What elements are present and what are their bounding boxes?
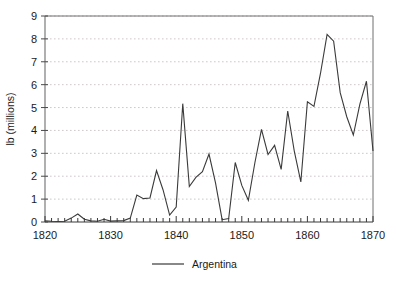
legend-label-argentina: Argentina xyxy=(192,258,237,270)
chart-legend: Argentina xyxy=(152,258,237,270)
y-tick-label-8: 8 xyxy=(31,33,37,45)
x-tick-label-1830: 1830 xyxy=(98,229,122,241)
y-axis-title: lb (millions) xyxy=(4,92,16,145)
y-tick-label-1: 1 xyxy=(31,193,37,205)
y-tick-label-9: 9 xyxy=(31,10,37,22)
y-tick-label-6: 6 xyxy=(31,79,37,91)
y-tick-label-2: 2 xyxy=(31,170,37,182)
y-tick-label-4: 4 xyxy=(31,124,37,136)
y-tick-label-0: 0 xyxy=(31,216,37,228)
x-axis-tick-labels: 182018301840185018601870 xyxy=(33,229,385,241)
x-tick-label-1860: 1860 xyxy=(295,229,319,241)
y-axis-tick-labels: 0123456789 xyxy=(31,10,37,228)
x-tick-label-1870: 1870 xyxy=(361,229,385,241)
x-tick-label-1840: 1840 xyxy=(164,229,188,241)
x-tick-label-1850: 1850 xyxy=(230,229,254,241)
x-tick-label-1820: 1820 xyxy=(33,229,57,241)
line-chart-canvas: 0123456789 182018301840185018601870 lb (… xyxy=(0,0,396,282)
y-tick-label-3: 3 xyxy=(31,147,37,159)
plot-background xyxy=(45,16,373,222)
y-tick-label-5: 5 xyxy=(31,102,37,114)
chart-figure: 0123456789 182018301840185018601870 lb (… xyxy=(0,0,396,282)
y-tick-label-7: 7 xyxy=(31,56,37,68)
